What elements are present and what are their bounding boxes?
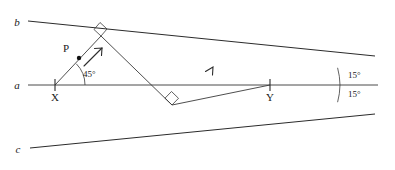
label-angle-45: 45° <box>83 69 96 79</box>
label-point-y: Y <box>266 91 274 103</box>
direction-arrow-2 <box>206 67 214 75</box>
label-line-a: a <box>14 79 20 91</box>
angle-arc-15-upper <box>338 68 340 85</box>
angle-arc-15-lower <box>338 85 340 102</box>
line-b <box>28 21 375 56</box>
label-point-p: P <box>63 42 69 54</box>
label-angle-15-lower: 15° <box>348 89 361 99</box>
label-point-x: X <box>51 91 59 103</box>
label-line-c: c <box>16 143 21 155</box>
right-angle-marker-bottom <box>165 92 179 106</box>
label-angle-15-upper: 15° <box>348 70 361 80</box>
geometry-diagram: b a c P X Y 45° 15° 15° <box>0 0 395 170</box>
line-c <box>30 114 375 148</box>
label-line-b: b <box>14 16 20 28</box>
diagram-canvas: b a c P X Y 45° 15° 15° <box>0 0 395 170</box>
point-p-dot <box>77 56 81 60</box>
